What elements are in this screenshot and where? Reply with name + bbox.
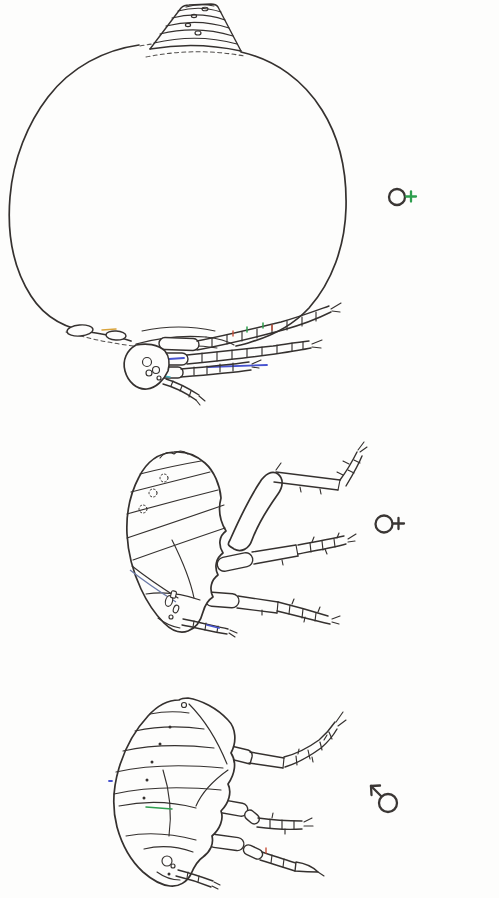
front-leg xyxy=(205,592,340,624)
head xyxy=(124,344,205,405)
abdominal-cone xyxy=(150,4,241,51)
tarsal-claws xyxy=(331,303,341,312)
front-leg xyxy=(207,834,324,876)
leg-segment-dividers xyxy=(289,605,316,621)
orange-scan-artifact xyxy=(102,329,116,330)
female-symbol-ring xyxy=(376,516,393,533)
tarsal-claws xyxy=(336,712,346,726)
plate-canvas xyxy=(0,0,499,898)
female-symbol xyxy=(376,516,405,533)
tarsal-claws xyxy=(348,534,356,542)
tarsal-claws xyxy=(332,616,340,624)
male-symbol-arrow-barb-v xyxy=(371,786,372,795)
hind-leg xyxy=(228,442,367,551)
tarsal-claws xyxy=(252,360,261,368)
tarsal-blade-tip xyxy=(295,862,324,876)
figure-female-flea xyxy=(127,442,367,637)
figure-engorged-female-flea xyxy=(9,4,346,405)
body-outline xyxy=(114,698,235,886)
coxal-bumps xyxy=(67,324,127,341)
tarsal-claws xyxy=(358,442,367,452)
female-symbol-engorged xyxy=(389,189,416,205)
tarsal-claws xyxy=(304,818,313,826)
mouthpart-palp xyxy=(163,379,205,405)
male-symbol xyxy=(371,786,397,813)
tarsal-bristles xyxy=(272,813,285,834)
tarsal-bristles xyxy=(298,735,327,762)
scanned-plate xyxy=(0,0,499,898)
balloon-abdomen-outline xyxy=(9,45,346,346)
figure-male-flea xyxy=(109,698,346,889)
tarsal-claws xyxy=(312,340,322,348)
female-symbol-ring xyxy=(389,189,405,205)
male-symbol-arrow-barb-h xyxy=(371,786,380,787)
leg-segment-dividers xyxy=(310,539,335,552)
